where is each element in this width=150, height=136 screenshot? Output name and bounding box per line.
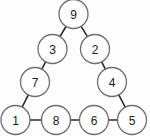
node-label: 2 <box>92 43 99 57</box>
node-label: 3 <box>49 43 56 57</box>
node-label: 8 <box>53 114 60 128</box>
graph-node[interactable]: 3 <box>38 35 67 64</box>
graph-node[interactable]: 5 <box>118 106 147 135</box>
node-label: 7 <box>32 76 39 90</box>
graph-edge <box>81 26 88 37</box>
graph-canvas: 932741865 <box>0 0 150 136</box>
graph-edge <box>119 94 126 107</box>
node-label: 9 <box>70 8 77 22</box>
node-label: 4 <box>109 76 116 90</box>
graph-edge <box>42 61 46 69</box>
graph-node[interactable]: 8 <box>42 106 71 135</box>
graph-edge <box>60 26 67 37</box>
node-label: 6 <box>91 114 98 128</box>
node-label: 5 <box>129 114 136 128</box>
graph-node[interactable]: 7 <box>21 68 50 97</box>
graph-node[interactable]: 6 <box>80 106 109 135</box>
node-label: 1 <box>12 114 19 128</box>
node-layer: 932741865 <box>1 0 147 135</box>
graph-svg: 932741865 <box>0 0 150 136</box>
graph-node[interactable]: 9 <box>59 0 88 29</box>
graph-edge <box>101 61 105 69</box>
graph-edge <box>22 94 29 107</box>
graph-node[interactable]: 2 <box>81 35 110 64</box>
graph-node[interactable]: 1 <box>1 106 30 135</box>
graph-node[interactable]: 4 <box>98 68 127 97</box>
